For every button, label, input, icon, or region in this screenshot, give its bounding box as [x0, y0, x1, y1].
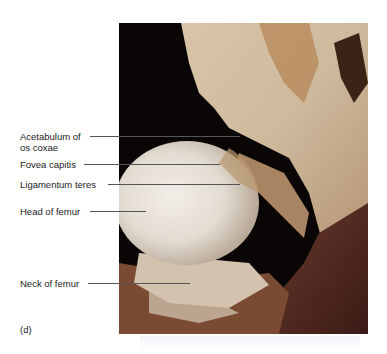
photo-shadow: [140, 336, 360, 350]
dissection-photo: [119, 23, 368, 334]
panel-letter: (d): [20, 324, 32, 335]
leader-fovea-capitis: [84, 164, 220, 165]
label-acetabulum-line1: Acetabulum of: [20, 131, 81, 142]
label-head-of-femur: Head of femur: [20, 206, 80, 217]
label-ligamentum-teres: Ligamentum teres: [20, 179, 96, 190]
label-acetabulum-line2: os coxae: [20, 142, 81, 153]
leader-head-of-femur: [90, 211, 146, 212]
leader-acetabulum: [90, 136, 240, 137]
label-fovea-capitis: Fovea capitis: [20, 159, 76, 170]
leader-neck-of-femur: [88, 283, 190, 284]
leader-ligamentum-teres: [108, 184, 240, 185]
label-acetabulum: Acetabulum of os coxae: [20, 131, 81, 153]
label-neck-of-femur: Neck of femur: [20, 278, 79, 289]
